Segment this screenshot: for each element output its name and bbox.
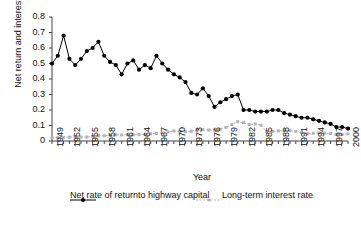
legend-label-line: Long-term interest rate (222, 190, 313, 201)
legend-label-long-term-interest-rate: Long-term interest rate (222, 190, 313, 201)
chart-legend: Net rate of returnto highway capitalLong… (0, 188, 357, 228)
x-axis-tick-label: 1973 (195, 127, 204, 147)
x-axis-tick-label: 1994 (317, 127, 326, 147)
x-axis-tick-label: 2000 (352, 127, 361, 147)
x-axis-tick-label: 1982 (248, 127, 257, 147)
series-net-rate-of-return (50, 34, 350, 131)
x-axis-tick-label: 1979 (230, 127, 239, 147)
x-axis-tick-label: 1991 (300, 127, 309, 147)
x-axis-tick-label: 1955 (91, 127, 100, 147)
legend-swatch-long-term-interest-rate (196, 191, 222, 201)
x-axis-tick-label: 1970 (178, 127, 187, 147)
x-axis-tick-label: 1964 (143, 127, 152, 147)
axis-lines (52, 17, 348, 141)
x-axis-title: Year (52, 172, 352, 182)
x-axis-tick-label: 1976 (213, 127, 222, 147)
x-axis-tick-label: 1988 (282, 127, 291, 147)
legend-label-line: Net rate of return (70, 190, 138, 201)
x-axis-tick-label: 1958 (108, 127, 117, 147)
x-axis-tick-label: 1961 (126, 127, 135, 147)
x-axis-tick-label: 1949 (56, 127, 65, 147)
x-axis-tick-label: 1967 (160, 127, 169, 147)
x-axis-tick-label: 1997 (335, 127, 344, 147)
legend-label-net-rate-of-return: Net rate of returnto highway capital (70, 190, 210, 201)
x-axis-tick-label: 1952 (73, 127, 82, 147)
x-axis-tick-label: 1985 (265, 127, 274, 147)
